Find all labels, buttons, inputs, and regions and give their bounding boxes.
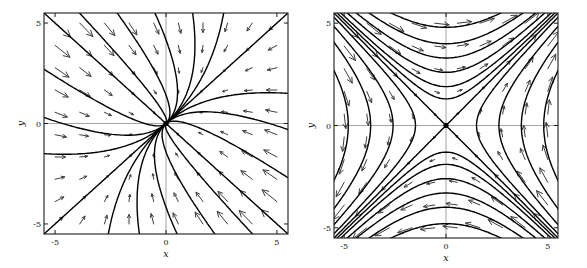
- field-arrow: [427, 182, 435, 185]
- field-arrow: [264, 150, 277, 157]
- field-arrow: [457, 66, 465, 69]
- field-arrow: [511, 217, 525, 228]
- field-arrow: [244, 89, 252, 92]
- phase-portrait-right: -505-505xy: [294, 0, 587, 268]
- trajectory: [166, 124, 288, 234]
- field-arrow: [522, 126, 526, 137]
- field-arrow: [224, 45, 228, 51]
- field-arrow: [129, 112, 133, 114]
- field-arrow: [453, 158, 458, 160]
- field-arrow: [367, 23, 381, 34]
- field-arrow: [242, 151, 253, 157]
- field-arrow: [457, 43, 468, 47]
- field-arrow: [196, 192, 203, 201]
- x-tick-label: 0: [443, 242, 448, 251]
- field-arrow: [154, 23, 159, 34]
- equilibrium-point: [443, 123, 448, 128]
- field-arrow: [387, 137, 390, 145]
- field-arrow: [218, 191, 228, 201]
- field-arrow: [104, 155, 109, 157]
- field-arrow: [104, 215, 107, 224]
- field-arrow: [267, 88, 277, 91]
- field-arrow: [220, 152, 228, 158]
- field-arrow: [367, 91, 372, 102]
- x-tick-label: 5: [545, 242, 550, 251]
- field-arrow: [420, 227, 434, 232]
- field-arrow: [457, 90, 462, 92]
- field-arrow: [55, 112, 67, 117]
- field-arrow: [389, 91, 394, 99]
- y-tick-label: -5: [33, 220, 41, 229]
- trajectory: [44, 13, 166, 123]
- field-arrow: [178, 23, 181, 33]
- field-arrow: [80, 90, 91, 96]
- field-arrow: [517, 171, 525, 182]
- field-arrow: [378, 205, 389, 213]
- field-arrow: [243, 131, 253, 135]
- field-arrow: [104, 90, 112, 96]
- field-arrow: [412, 69, 420, 74]
- field-arrow: [247, 23, 252, 31]
- field-arrow: [199, 132, 203, 134]
- field-arrow: [154, 90, 157, 94]
- y-tick-label: 5: [36, 19, 41, 28]
- trajectory: [167, 112, 288, 130]
- field-arrow: [244, 110, 253, 113]
- field-arrow: [201, 68, 203, 73]
- field-arrow: [341, 137, 346, 151]
- field-arrow: [265, 130, 277, 135]
- x-tick-label: -5: [340, 242, 348, 251]
- field-arrow: [55, 135, 66, 139]
- field-arrow: [55, 176, 65, 179]
- field-arrow: [221, 131, 228, 134]
- field-arrow: [55, 155, 65, 158]
- field-arrow: [344, 69, 352, 83]
- field-arrow: [385, 160, 390, 168]
- field-arrow: [503, 38, 514, 46]
- field-arrow: [80, 112, 90, 116]
- field-arrow: [80, 216, 85, 224]
- trajectory: [44, 118, 165, 136]
- field-arrow: [525, 103, 529, 114]
- field-arrow: [225, 23, 228, 32]
- field-arrow: [55, 90, 68, 97]
- field-arrow: [150, 214, 153, 224]
- field-arrow: [366, 114, 370, 125]
- field-arrow: [389, 46, 400, 54]
- field-arrow: [548, 54, 556, 68]
- field-arrow: [152, 174, 154, 180]
- plot-area: [44, 13, 288, 234]
- x-tick-label: 0: [163, 238, 168, 247]
- x-tick-label: -5: [51, 238, 59, 247]
- x-axis-title: x: [163, 248, 169, 259]
- field-arrow: [201, 45, 203, 52]
- field-arrow: [268, 45, 277, 50]
- field-arrow: [55, 45, 70, 57]
- field-arrow: [503, 83, 508, 91]
- x-tick-label: 5: [274, 238, 279, 247]
- field-arrow: [176, 153, 179, 157]
- field-arrow: [359, 182, 367, 193]
- field-arrow: [195, 212, 203, 224]
- field-arrow: [502, 106, 505, 114]
- phase-portrait-left: -505-505xy: [0, 0, 294, 268]
- field-arrow: [540, 168, 548, 182]
- figure-phase-portraits: -505-505xy -505-505xy: [0, 0, 587, 268]
- field-arrow: [480, 64, 488, 69]
- field-arrow: [424, 204, 435, 208]
- field-arrow: [263, 170, 277, 180]
- field-arrow: [404, 182, 412, 187]
- field-arrow: [202, 23, 205, 33]
- field-arrow: [435, 69, 443, 72]
- field-arrow: [104, 23, 114, 36]
- field-arrow: [364, 137, 368, 148]
- field-arrow: [222, 90, 227, 92]
- field-arrow: [104, 112, 111, 115]
- field-arrow: [472, 178, 480, 183]
- field-arrow: [457, 20, 471, 25]
- field-arrow: [129, 23, 137, 35]
- field-arrow: [525, 57, 533, 68]
- field-arrow: [446, 202, 457, 206]
- field-arrow: [128, 215, 131, 225]
- field-arrow: [435, 45, 446, 49]
